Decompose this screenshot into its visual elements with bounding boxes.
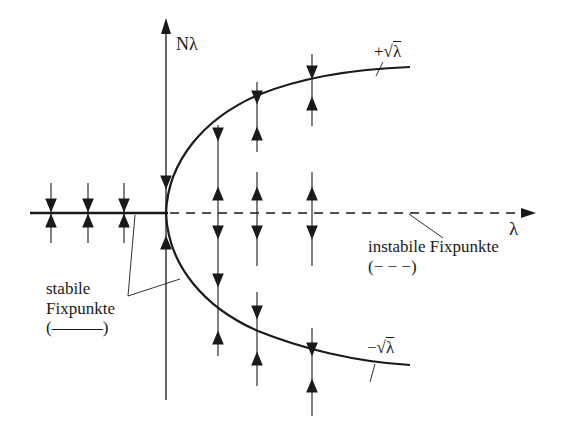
- leader-minus-sqrt: [370, 364, 375, 382]
- y-axis-label: Nλ: [176, 34, 198, 55]
- arrow-up-icon: [307, 380, 317, 392]
- unstable-fixpoints-annotation: instabile Fixpunkte (− − −): [368, 237, 499, 276]
- stable-label-line1: stabile: [46, 279, 115, 299]
- arrow-down-icon: [83, 199, 93, 211]
- arrow-up-icon: [307, 188, 317, 200]
- lower-branch-radical: √: [377, 338, 386, 357]
- arrow-down-icon: [119, 199, 129, 211]
- arrow-down-icon: [307, 66, 317, 78]
- lower-branch-sign: −: [367, 338, 377, 357]
- arrow-up-icon: [213, 188, 223, 200]
- x-axis-arrowhead-icon: [521, 208, 536, 218]
- lower-branch-var: λ: [386, 338, 394, 357]
- arrow-down-icon: [213, 226, 223, 238]
- arrow-down-icon: [213, 274, 223, 286]
- unstable-label-line1: instabile Fixpunkte: [368, 237, 499, 257]
- arrow-up-icon: [119, 215, 129, 227]
- arrow-down-icon: [46, 199, 56, 211]
- arrow-up-icon: [252, 188, 262, 200]
- arrow-down-icon: [213, 128, 223, 140]
- y-axis-arrowhead-icon: [161, 18, 171, 34]
- stable-fixpoints-annotation: stabile Fixpunkte (———): [46, 279, 115, 338]
- bifurcation-diagram: [0, 0, 561, 430]
- arrow-up-icon: [83, 215, 93, 227]
- arrow-up-icon: [252, 353, 262, 365]
- leader-unstable: [409, 214, 443, 238]
- stable-label-line2: Fixpunkte: [46, 299, 115, 319]
- arrow-down-icon: [252, 226, 262, 238]
- arrow-down-icon: [307, 226, 317, 238]
- leader-lines: [128, 62, 443, 382]
- unstable-label-line2: (− − −): [368, 257, 499, 277]
- arrow-down-icon: [252, 306, 262, 318]
- arrow-up-icon: [213, 332, 223, 344]
- upper-branch-label: +√λ: [374, 42, 401, 62]
- leader-stable-branch: [128, 279, 180, 296]
- upper-branch-sign: +: [374, 42, 384, 61]
- arrow-up-icon: [307, 98, 317, 110]
- arrow-up-icon: [252, 128, 262, 140]
- flow-field: [46, 54, 317, 416]
- upper-branch-var: λ: [393, 42, 401, 61]
- upper-branch-radical: √: [384, 42, 393, 61]
- arrow-up-icon: [46, 215, 56, 227]
- upper-stable-branch: [166, 67, 410, 213]
- stable-label-line3: (———): [46, 318, 115, 338]
- x-axis-label: λ: [509, 218, 518, 240]
- lower-branch-label: −√λ: [367, 338, 394, 358]
